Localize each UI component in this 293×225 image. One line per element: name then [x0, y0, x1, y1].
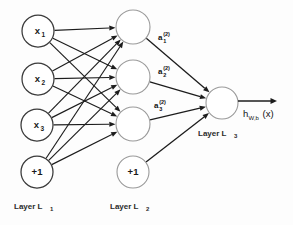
layer-caption-L1: Layer L1	[14, 202, 54, 212]
output-label-subscript: W,b	[249, 115, 260, 121]
diagram-canvas: x1x2x3+1+1 a(2)1a(2)2a(2)3Layer L1Layer …	[0, 0, 293, 225]
node-layer: x1x2x3+1+1	[21, 10, 238, 188]
layer-caption-L3-subscript: 3	[234, 133, 238, 139]
activation-label-a3-subscript: 3	[159, 106, 162, 112]
edge-hidden-node-2-to-output-node	[150, 82, 206, 99]
input-node-bias-text: +1	[32, 166, 44, 177]
hidden-node-2[interactable]	[116, 60, 150, 94]
input-node-x3-subscript: 3	[40, 125, 44, 132]
activation-label-a1-subscript: 1	[163, 38, 166, 44]
activation-label-a1-superscript: (2)	[163, 31, 170, 37]
output-arrow	[238, 98, 277, 104]
input-node-x3[interactable]: x3	[21, 109, 53, 141]
edge-layer	[46, 26, 209, 165]
activation-label-a2-subscript: 2	[163, 72, 166, 78]
output-label-argument: (x)	[263, 108, 274, 119]
input-node-x2[interactable]: x2	[22, 63, 54, 95]
input-node-x3-text: x	[34, 119, 40, 130]
activation-label-a2: a(2)2	[158, 65, 170, 78]
layer-caption-L3-text: Layer L	[198, 129, 227, 138]
input-node-x1-text: x	[35, 25, 41, 36]
layer-caption-L2: Layer L2	[110, 202, 150, 212]
hidden-node-3[interactable]	[116, 107, 150, 141]
activation-label-a2-superscript: (2)	[163, 65, 170, 71]
activation-label-a1: a(2)1	[158, 31, 170, 44]
output-label-base: h	[243, 108, 248, 119]
layer-caption-L1-subscript: 1	[50, 206, 54, 212]
edge-input-node-x1-to-hidden-node-1	[54, 26, 115, 31]
input-node-x2-subscript: 2	[41, 79, 45, 86]
hidden-node-1[interactable]	[116, 10, 150, 44]
neural-network-svg: x1x2x3+1+1 a(2)1a(2)2a(2)3Layer L1Layer …	[0, 0, 293, 225]
input-node-x1[interactable]: x1	[22, 15, 54, 47]
layer-caption-L2-text: Layer L	[110, 202, 139, 211]
layer-caption-L2-subscript: 2	[146, 206, 150, 212]
output-node[interactable]	[206, 87, 238, 119]
input-node-bias[interactable]: +1	[21, 156, 53, 188]
activation-label-a3-superscript: (2)	[159, 99, 166, 105]
hidden-node-bias-text: +1	[128, 166, 140, 177]
output-label: hW,b(x)	[243, 108, 274, 121]
hidden-node-bias[interactable]: +1	[117, 156, 149, 188]
input-node-x1-subscript: 1	[41, 31, 45, 38]
input-node-x2-text: x	[35, 73, 41, 84]
layer-caption-L3: Layer L3	[198, 129, 238, 139]
edge-input-node-bias-to-hidden-node-1	[46, 42, 123, 159]
activation-label-a3: a(2)3	[154, 99, 166, 112]
layer-caption-L1-text: Layer L	[14, 202, 43, 211]
